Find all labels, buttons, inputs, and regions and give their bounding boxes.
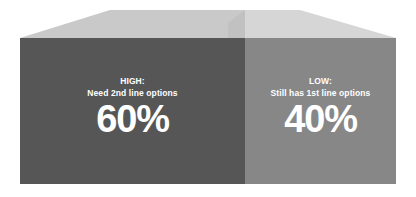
- panel-left-face: [20, 38, 245, 184]
- infographic-container: HIGH: Need 2nd line options 60% LOW: Sti…: [0, 0, 416, 197]
- roof-left-facet: [20, 10, 245, 38]
- roof-right-facet: [245, 10, 396, 38]
- panel-right-face: [245, 38, 396, 184]
- block-shape: [0, 0, 416, 197]
